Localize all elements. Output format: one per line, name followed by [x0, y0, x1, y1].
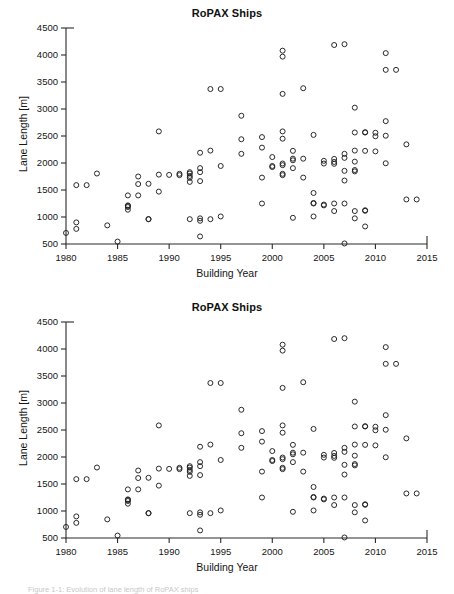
svg-text:3000: 3000 [37, 103, 58, 114]
scatter-plot-top: 5001000150020002500300035004000450019801… [0, 0, 454, 290]
svg-text:2000: 2000 [37, 157, 58, 168]
y-axis-title: Lane Length [m] [17, 34, 29, 234]
svg-text:1500: 1500 [37, 478, 58, 489]
svg-text:2015: 2015 [416, 546, 437, 557]
scatter-plot-bottom: 5001000150020002500300035004000450019801… [0, 294, 454, 584]
svg-text:3500: 3500 [37, 370, 58, 381]
svg-text:2000: 2000 [262, 546, 283, 557]
svg-text:500: 500 [42, 238, 58, 249]
svg-text:2005: 2005 [313, 546, 334, 557]
svg-text:1985: 1985 [107, 252, 128, 263]
svg-text:2005: 2005 [313, 252, 334, 263]
svg-text:2015: 2015 [416, 252, 437, 263]
svg-text:1995: 1995 [210, 546, 231, 557]
svg-text:2500: 2500 [37, 130, 58, 141]
svg-text:1980: 1980 [55, 546, 76, 557]
svg-text:1500: 1500 [37, 184, 58, 195]
svg-text:1995: 1995 [210, 252, 231, 263]
svg-text:2000: 2000 [37, 451, 58, 462]
y-axis-title: Lane Length [m] [17, 328, 29, 528]
svg-text:2500: 2500 [37, 424, 58, 435]
svg-text:1000: 1000 [37, 211, 58, 222]
svg-text:2010: 2010 [365, 252, 386, 263]
svg-text:500: 500 [42, 532, 58, 543]
figure-caption: Figure 1-1: Evolution of lane length of … [28, 585, 428, 594]
svg-text:4500: 4500 [37, 22, 58, 33]
svg-text:2010: 2010 [365, 546, 386, 557]
svg-text:4000: 4000 [37, 343, 58, 354]
svg-text:3000: 3000 [37, 397, 58, 408]
svg-text:1990: 1990 [159, 252, 180, 263]
svg-text:4500: 4500 [37, 316, 58, 327]
svg-text:1990: 1990 [159, 546, 180, 557]
x-axis-title: Building Year [0, 267, 454, 279]
chart-panel-top: RoPAX Ships 5001000150020002500300035004… [0, 0, 454, 290]
svg-text:1000: 1000 [37, 505, 58, 516]
svg-text:3500: 3500 [37, 76, 58, 87]
svg-text:4000: 4000 [37, 49, 58, 60]
svg-text:2000: 2000 [262, 252, 283, 263]
svg-text:1980: 1980 [55, 252, 76, 263]
figure-container: RoPAX Ships 5001000150020002500300035004… [0, 0, 454, 594]
chart-panel-bottom: RoPAX Ships 5001000150020002500300035004… [0, 294, 454, 584]
svg-text:1985: 1985 [107, 546, 128, 557]
x-axis-title: Building Year [0, 561, 454, 573]
